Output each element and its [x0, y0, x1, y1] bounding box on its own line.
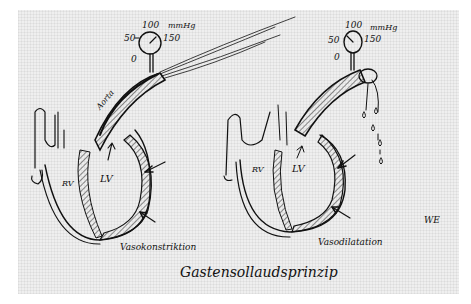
sketch-canvas: 100 50 150 0 mmHg Aorta [0, 0, 471, 304]
diagram-caption: Gastensollaudsprinzip [180, 264, 338, 280]
rv-label-left: RV [61, 179, 75, 188]
gauge-tick-150-right: 150 [364, 34, 381, 44]
author-signature: WE [424, 215, 440, 225]
lv-label-left: LV [99, 173, 114, 184]
vasokonstriktion-label: Vasokonstriktion [120, 242, 197, 252]
gauge-tick-50-right: 50 [328, 35, 340, 45]
gauge-tick-0-right: 0 [334, 52, 340, 62]
gauge-unit-right: mmHg [370, 23, 397, 32]
right-heart-diagram: 100 50 150 0 mmHg [224, 20, 397, 247]
pressure-gauge-right: 100 50 150 0 mmHg [328, 20, 397, 70]
lv-label-right: LV [291, 163, 306, 174]
vasodilatation-label: Vasodilatation [318, 237, 383, 247]
gauge-tick-100-right: 100 [345, 20, 362, 30]
gauge-tick-0: 0 [131, 54, 137, 64]
blood-drips [363, 80, 383, 164]
gauge-tick-100: 100 [142, 20, 159, 30]
aorta-right [295, 69, 377, 136]
gauge-tick-50: 50 [124, 33, 136, 43]
rv-label-right: RV [251, 165, 265, 174]
gauge-tick-150: 150 [163, 33, 180, 43]
gauge-unit: mmHg [168, 21, 195, 30]
left-heart-diagram: 100 50 150 0 mmHg Aorta [32, 17, 295, 252]
